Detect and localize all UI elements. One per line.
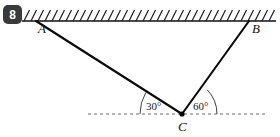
hatch-tick <box>52 10 58 21</box>
hatch-tick <box>73 10 79 21</box>
hatch-tick <box>241 10 247 21</box>
hatch-tick <box>115 10 121 21</box>
geometry-figure: 8 30° 60° A B C <box>0 0 280 137</box>
angle-arc-right <box>207 90 217 114</box>
hatch-tick <box>101 10 107 21</box>
hatch-tick <box>262 10 268 21</box>
hatch-tick <box>255 10 261 21</box>
ceiling-hatching <box>24 10 275 21</box>
hatch-tick <box>157 10 163 21</box>
hatch-tick <box>66 10 72 21</box>
hatch-tick <box>199 10 205 21</box>
hatch-tick <box>192 10 198 21</box>
hatch-tick <box>171 10 177 21</box>
angle-label-right: 60° <box>193 100 208 112</box>
angle-arc-left <box>140 93 146 115</box>
angle-label-left: 30° <box>146 100 161 112</box>
hatch-tick <box>185 10 191 21</box>
hatch-tick <box>220 10 226 21</box>
hatch-tick <box>122 10 128 21</box>
badge-number: 8 <box>9 8 16 22</box>
hatch-tick <box>234 10 240 21</box>
hatch-tick <box>45 10 51 21</box>
hatch-tick <box>108 10 114 21</box>
hatch-tick <box>24 10 30 21</box>
point-label-b: B <box>252 21 260 36</box>
hatch-tick <box>164 10 170 21</box>
hatch-tick <box>87 10 93 21</box>
hatch-tick <box>136 10 142 21</box>
hatch-tick <box>129 10 135 21</box>
hatch-tick <box>248 10 254 21</box>
hatch-tick <box>213 10 219 21</box>
hatch-tick <box>227 10 233 21</box>
hatch-tick <box>269 10 275 21</box>
point-label-c: C <box>178 119 187 134</box>
point-label-a: A <box>37 21 46 36</box>
hatch-tick <box>80 10 86 21</box>
hatch-tick <box>94 10 100 21</box>
hatch-tick <box>31 10 37 21</box>
hatched-ceiling <box>22 10 276 21</box>
hatch-tick <box>38 10 44 21</box>
figure-container: 8 30° 60° A B C <box>0 0 280 137</box>
hatch-tick <box>178 10 184 21</box>
hatch-tick <box>206 10 212 21</box>
vertex-point-c <box>179 111 184 116</box>
hatch-tick <box>143 10 149 21</box>
problem-number-badge: 8 <box>3 5 22 24</box>
hatch-tick <box>150 10 156 21</box>
hatch-tick <box>59 10 65 21</box>
